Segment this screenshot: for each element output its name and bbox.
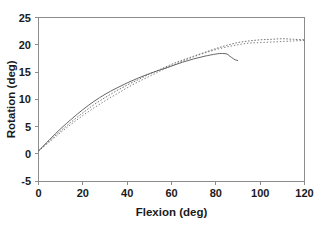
- chart-canvas: 25 20 15 10 5 0 -5 0 20 40 60 80 100 120…: [0, 0, 321, 227]
- chart-background: [0, 0, 321, 227]
- y-tick-label-0: 0: [25, 148, 31, 160]
- x-tick-label-80: 80: [210, 187, 222, 199]
- y-tick-label-5: 5: [25, 121, 31, 133]
- y-axis-title: Rotation (deg): [5, 60, 17, 138]
- y-tick-label-10: 10: [19, 93, 31, 105]
- x-tick-label-60: 60: [165, 187, 177, 199]
- x-tick-label-0: 0: [35, 187, 41, 199]
- x-tick-label-100: 100: [251, 187, 269, 199]
- x-axis-title: Flexion (deg): [136, 206, 208, 218]
- x-tick-label-20: 20: [77, 187, 89, 199]
- x-tick-label-120: 120: [295, 187, 313, 199]
- x-tick-label-40: 40: [121, 187, 133, 199]
- y-tick-label-20: 20: [19, 39, 31, 51]
- y-tick-label-15: 15: [19, 66, 31, 78]
- y-tick-label-minus5: -5: [21, 175, 31, 187]
- y-tick-label-25: 25: [19, 12, 31, 24]
- chart-figure: 25 20 15 10 5 0 -5 0 20 40 60 80 100 120…: [0, 0, 321, 227]
